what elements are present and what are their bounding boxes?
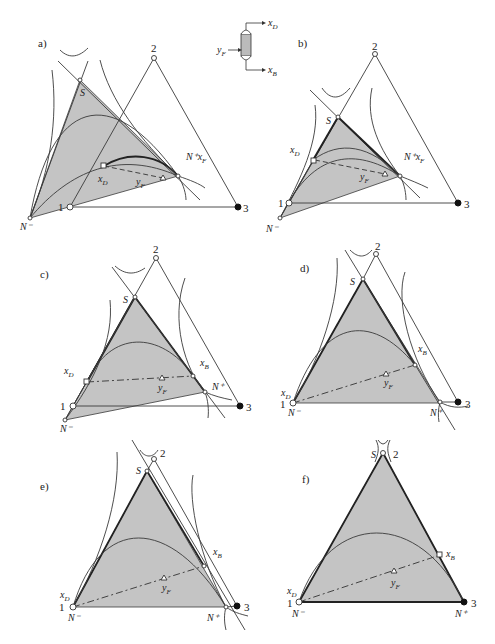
vertex-3 — [235, 204, 241, 210]
xd-marker — [311, 158, 316, 163]
xb-label: xB — [199, 357, 209, 371]
vertex-1 — [70, 403, 76, 409]
vertex-2 — [152, 56, 157, 61]
panel-label: e) — [40, 480, 49, 493]
vertex-2-label: 2 — [393, 448, 399, 460]
node-N-plus — [176, 174, 180, 178]
vertex-2 — [374, 252, 379, 257]
panel-f: f) 2 1 3 S N⁻ N⁺ xD xB yF — [286, 440, 477, 619]
xb-label: xB — [445, 548, 455, 562]
xb-marker — [191, 374, 195, 378]
xd-label: xD — [63, 365, 74, 379]
panel-label: f) — [302, 473, 310, 486]
panel-label: c) — [40, 268, 49, 281]
vertex-2-label: 2 — [151, 42, 157, 54]
node-N-minus — [278, 216, 282, 220]
xd-marker — [101, 163, 106, 168]
saddle-label: S — [350, 276, 355, 287]
vertex-3-label: 3 — [246, 401, 252, 413]
node-N-plus — [438, 400, 442, 404]
n-plus-label: N⁺ — [454, 608, 468, 619]
saddle-label: S — [136, 465, 141, 476]
node-N-minus — [28, 216, 32, 220]
vertex-3-label: 3 — [464, 198, 470, 210]
vertex-3 — [455, 200, 461, 206]
vertex-1 — [296, 599, 302, 605]
xd-marker — [84, 379, 89, 384]
xb-label: xB — [212, 546, 222, 560]
n-plus-label: N⁺ — [429, 407, 443, 418]
xb-label: xB — [417, 343, 427, 357]
n-minus-label: N⁻ — [291, 608, 305, 619]
vertex-2 — [381, 451, 386, 456]
n-plus-xf-label: N⁺xF — [185, 151, 207, 165]
vertex-3-label: 3 — [465, 398, 471, 410]
n-minus-label: N⁻ — [265, 223, 279, 234]
saddle-point-S — [336, 115, 340, 119]
panel-d: d) 2 1 3 S N⁻ N⁺ xD xB yF — [280, 240, 471, 430]
n-minus-label: N⁻ — [19, 221, 33, 232]
column-xb-label: xB — [267, 64, 277, 78]
node-N-plus — [398, 174, 402, 178]
node-N-plus — [224, 605, 228, 609]
vertex-3 — [237, 403, 243, 409]
panel-b: b) 2 1 3 S N⁻ N⁺xF xD yF — [265, 37, 470, 234]
saddle-point-S — [78, 78, 82, 82]
n-plus-label: N⁺ — [211, 381, 225, 392]
shaded-region — [65, 297, 205, 420]
n-plus-label: N⁺ — [206, 612, 220, 623]
saddle-point-S — [133, 295, 137, 299]
panel-e: e) 2 1 3 S N⁻ N⁺ xD xB yF — [40, 440, 250, 630]
ternary-diagram-figure: xD xB yF a) 2 1 3 S N⁻ N⁺xF xD yF — [0, 0, 495, 644]
vertex-1-label: 1 — [60, 400, 66, 412]
vertex-3 — [455, 399, 461, 405]
saddle-label: S — [80, 87, 85, 98]
panel-label: d) — [300, 262, 310, 275]
node-N-plus — [203, 390, 207, 394]
vertex-3 — [461, 599, 467, 605]
saddle-point-S — [361, 277, 365, 281]
saddle-point-S — [145, 469, 149, 473]
n-minus-label: N⁻ — [59, 423, 73, 434]
vertex-1 — [286, 200, 292, 206]
vertex-2-label: 2 — [372, 40, 378, 52]
shaded-region — [299, 453, 464, 602]
n-minus-label: N⁻ — [287, 407, 301, 418]
vertex-2 — [152, 457, 157, 462]
panel-label: a) — [38, 37, 47, 50]
xb-marker — [437, 552, 442, 557]
vertex-1 — [70, 604, 76, 610]
vertex-1 — [290, 400, 296, 406]
panel-a: a) 2 1 3 S N⁻ N⁺xF xD yF — [19, 37, 249, 232]
saddle-label: S — [326, 115, 331, 126]
vertex-2 — [373, 52, 378, 57]
vertex-2-label: 2 — [375, 240, 381, 252]
vertex-3 — [234, 603, 240, 609]
column-xd-label: xD — [267, 17, 278, 31]
node-N-minus — [63, 418, 67, 422]
vertex-1 — [67, 204, 73, 210]
vertex-1-label: 1 — [278, 197, 284, 209]
vertex-2-label: 2 — [160, 447, 166, 459]
vertex-3-label: 3 — [471, 597, 477, 609]
panel-label: b) — [298, 37, 308, 50]
distillation-column-icon: xD xB yF — [216, 17, 278, 78]
column-yf-label: yF — [216, 44, 226, 58]
shaded-region — [293, 279, 440, 403]
vertex-2-label: 2 — [153, 243, 159, 255]
saddle-label: S — [371, 449, 376, 460]
xb-marker — [202, 564, 206, 568]
xb-marker — [413, 363, 417, 367]
n-plus-xf-label: N⁺xF — [403, 151, 425, 165]
saddle-label: S — [123, 294, 128, 305]
xd-label: xD — [289, 144, 300, 158]
vertex-3-label: 3 — [244, 601, 250, 613]
n-minus-label: N⁻ — [67, 612, 81, 623]
vertex-3-label: 3 — [243, 202, 249, 214]
panel-c: c) 2 1 3 S N⁻ N⁺ xD xB yF — [40, 243, 252, 434]
vertex-1-label: 1 — [58, 201, 64, 213]
vertex-2 — [154, 256, 159, 261]
